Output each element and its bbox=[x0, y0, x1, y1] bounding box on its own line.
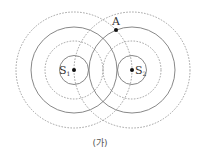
source-1-dot bbox=[72, 68, 76, 72]
point-a-dot bbox=[114, 28, 118, 32]
source-2-dot bbox=[130, 68, 134, 72]
source-2-label: S2 bbox=[135, 64, 147, 77]
point-a-label: A bbox=[111, 15, 121, 28]
figure-caption: (가) bbox=[0, 136, 200, 149]
interference-diagram: S1 S2 A bbox=[0, 0, 200, 157]
source-1-label: S1 bbox=[59, 64, 70, 77]
